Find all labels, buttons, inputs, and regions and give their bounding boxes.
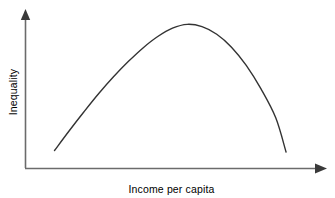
kuznets-curve-diagram: Inequality Income per capita — [0, 0, 335, 198]
kuznets-curve-path — [55, 24, 287, 152]
y-axis-label-text: Inequality — [7, 69, 19, 115]
x-axis-label-text: Income per capita — [120, 183, 214, 195]
x-axis-arrow-icon — [315, 163, 327, 173]
y-axis-arrow-icon — [21, 9, 30, 20]
diagram-canvas — [0, 0, 335, 198]
x-axis-label: Income per capita — [0, 179, 335, 197]
